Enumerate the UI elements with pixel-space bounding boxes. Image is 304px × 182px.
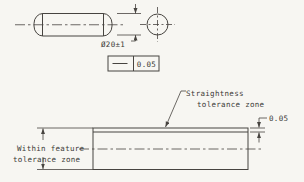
pin-side-view bbox=[15, 14, 126, 37]
diameter-label: Ø20±1 bbox=[101, 40, 125, 49]
tolerance-value: 0.05 bbox=[137, 60, 156, 69]
diameter-dimension: Ø20±1 bbox=[101, 4, 141, 49]
callout-leader-line bbox=[166, 91, 182, 127]
tolerance-zone-view: Within feature tolerance zone Straightne… bbox=[13, 89, 288, 170]
drawing-svg: Ø20±1 0.05 Within feature tolerance bbox=[0, 0, 304, 182]
callout-label-line1: Straightness bbox=[186, 89, 244, 98]
within-feature-label-line2: tolerance zone bbox=[13, 155, 81, 164]
within-feature-label-line1: Within feature bbox=[17, 144, 85, 153]
straightness-tolerance-drawing: Ø20±1 0.05 Within feature tolerance bbox=[0, 0, 304, 182]
zone-height-label: 0.05 bbox=[269, 114, 288, 123]
callout-label-line2: tolerance zone bbox=[197, 100, 265, 109]
feature-control-frame: 0.05 bbox=[108, 56, 159, 71]
pin-end-view bbox=[140, 7, 175, 42]
